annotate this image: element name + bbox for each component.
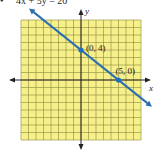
data-point [116, 77, 121, 82]
y-axis-label: y [84, 6, 89, 16]
x-axis-left-arrow-icon [9, 78, 15, 83]
x-axis-label: x [148, 83, 153, 93]
data-point [78, 47, 83, 52]
x-axis-right-arrow-icon [145, 78, 151, 83]
y-axis-up-arrow-icon [79, 9, 84, 15]
point-label: (5, 0) [116, 66, 136, 76]
point-label: (0, 4) [86, 43, 106, 53]
graph: xy (0, 4)(5, 0) [0, 0, 157, 150]
y-axis-down-arrow-icon [79, 144, 84, 150]
